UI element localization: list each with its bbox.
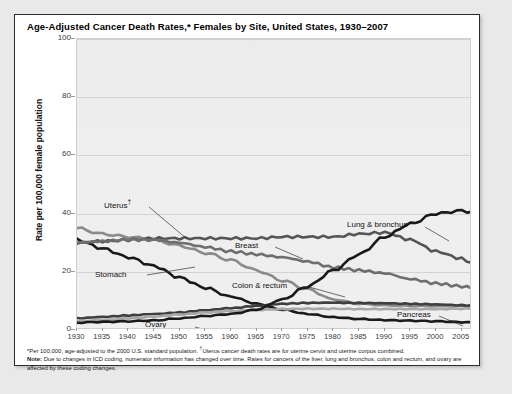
x-axis-tick-label: 1950: [170, 332, 187, 341]
x-axis-tick-label: 1985: [350, 332, 367, 341]
x-axis-tick-label: 1940: [119, 332, 136, 341]
x-axis-tick: [461, 328, 462, 331]
x-axis-tick-label: 1980: [324, 332, 341, 341]
x-axis-tick: [230, 328, 231, 331]
annotation-leader-line: [425, 227, 449, 241]
series-label-uterus: Uterus†: [104, 199, 131, 210]
x-axis-tick: [435, 328, 436, 331]
x-axis-tick-label: 1970: [273, 332, 290, 341]
y-axis-tick: [71, 96, 75, 97]
x-axis-tick: [281, 328, 282, 331]
page-title: Age-Adjusted Cancer Death Rates,* Female…: [27, 21, 388, 32]
x-axis-tick: [204, 328, 205, 331]
x-axis-tick: [179, 328, 180, 331]
x-axis-tick-label: 1960: [221, 332, 238, 341]
series-label-pancreas: Pancreas: [397, 311, 431, 319]
series-label-lung-bronchus: Lung & bronchus: [347, 221, 408, 229]
x-axis-tick-label: 1955: [196, 332, 213, 341]
y-axis-tick-label: 80: [43, 92, 71, 100]
x-axis-tick: [307, 328, 308, 331]
annotation-leader-line: [149, 207, 187, 239]
x-axis-tick-label: 1930: [68, 332, 85, 341]
plot-area: Uterus†StomachOvaryBreastColon & rectumL…: [76, 38, 471, 329]
footnotes: *Per 100,000, age-adjusted to the 2000 U…: [27, 345, 469, 372]
x-axis-tick: [358, 328, 359, 331]
y-axis-tick: [71, 329, 75, 330]
x-axis-tick-label: 1945: [144, 332, 161, 341]
x-axis-tick-label: 2000: [427, 332, 444, 341]
x-axis-tick-label: 1995: [401, 332, 418, 341]
y-axis-tick: [71, 38, 75, 39]
y-axis-tick-label: 60: [43, 150, 71, 158]
x-axis-tick-label: 1965: [247, 332, 264, 341]
x-axis-tick-label: 1935: [93, 332, 110, 341]
footnote-dagger-text: Uterus cancer death rates are for uterin…: [202, 348, 404, 354]
x-axis-tick: [76, 328, 77, 331]
y-axis-tick: [71, 271, 75, 272]
y-axis-tick-label: 40: [43, 209, 71, 217]
y-axis-tick-label: 100: [43, 34, 71, 42]
annotation-leader-line: [195, 327, 225, 329]
series-label-breast: Breast: [235, 242, 258, 250]
y-axis-title: Rate per 100,000 female population: [34, 70, 44, 270]
series-label-stomach: Stomach: [95, 271, 127, 279]
x-axis-tick: [256, 328, 257, 331]
series-label-colon-rectum: Colon & rectum: [232, 282, 287, 290]
x-axis-tick: [102, 328, 103, 331]
x-axis-tick-label: 1990: [375, 332, 392, 341]
chart-card: Age-Adjusted Cancer Death Rates,* Female…: [14, 14, 480, 366]
note-text: Due to changes in ICD coding, numerator …: [27, 356, 462, 370]
x-axis-labels: 1930193519401945195019551960196519701975…: [76, 331, 471, 343]
series-label-ovary: Ovary: [145, 321, 166, 329]
x-axis-tick: [384, 328, 385, 331]
note-label: Note:: [27, 356, 42, 362]
x-axis-tick-label: 2005: [452, 332, 469, 341]
x-axis-tick-label: 1975: [298, 332, 315, 341]
y-axis-tick: [71, 213, 75, 214]
y-axis-tick: [71, 154, 75, 155]
x-axis-tick: [127, 328, 128, 331]
x-axis-tick: [332, 328, 333, 331]
y-axis-tick-label: 20: [43, 267, 71, 275]
x-axis-tick: [409, 328, 410, 331]
x-axis-tick: [153, 328, 154, 331]
footnote-star: *Per 100,000, age-adjusted to the 2000 U…: [27, 348, 200, 354]
